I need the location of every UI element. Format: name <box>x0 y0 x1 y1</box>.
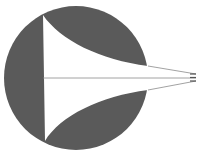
lower-ray <box>148 81 196 90</box>
horn-diagram <box>0 0 199 153</box>
focal-marks <box>190 74 196 81</box>
upper-ray <box>148 66 196 74</box>
